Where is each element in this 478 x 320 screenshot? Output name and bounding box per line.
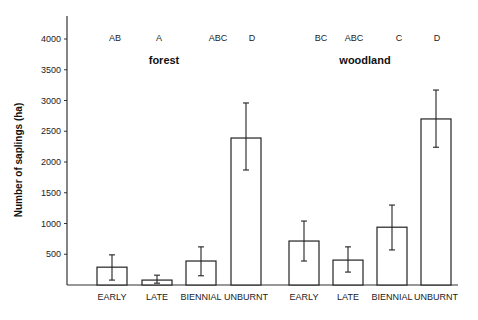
bar-forest-unburnt (231, 103, 261, 285)
x-category-label: EARLY (98, 292, 127, 302)
bar-woodland-unburnt (421, 90, 451, 285)
y-tick-label: 2000 (41, 157, 61, 167)
significance-letter: C (396, 33, 403, 43)
bars (97, 90, 451, 285)
y-tick-label: 500 (46, 249, 61, 259)
bar-forest-early (97, 255, 127, 285)
group-label-forest: forest (149, 54, 180, 66)
bar-woodland-biennial (377, 205, 407, 285)
y-tick-label: 4000 (41, 34, 61, 44)
y-tick-label: 1000 (41, 219, 61, 229)
x-category-label: BIENNIAL (371, 292, 412, 302)
significance-letter: D (434, 33, 441, 43)
bar-forest-late (142, 275, 172, 285)
y-axis-ticks: 5001000150020002500300035004000 (41, 34, 67, 259)
significance-letter: A (156, 33, 162, 43)
significance-letter: D (249, 33, 256, 43)
y-tick-label: 1500 (41, 188, 61, 198)
group-label-woodland: woodland (338, 54, 390, 66)
x-category-label: UNBURNT (224, 292, 269, 302)
y-tick-label: 3500 (41, 65, 61, 75)
x-category-label: EARLY (290, 292, 319, 302)
x-category-label: LATE (337, 292, 359, 302)
x-category-label: LATE (146, 292, 168, 302)
y-tick-label: 2500 (41, 126, 61, 136)
x-category-label: UNBURNT (414, 292, 459, 302)
x-category-label: BIENNIAL (180, 292, 221, 302)
significance-letter: ABC (209, 33, 228, 43)
significance-letter: AB (109, 33, 121, 43)
significance-letter: BC (315, 33, 328, 43)
bar-chart: 5001000150020002500300035004000 EARLYABL… (0, 0, 478, 320)
bar-forest-biennial (186, 247, 216, 285)
bar-woodland-late (333, 247, 363, 285)
bar-woodland-early (289, 221, 319, 285)
y-tick-label: 3000 (41, 96, 61, 106)
y-axis-label: Number of saplings (ha) (13, 103, 24, 217)
significance-letter: ABC (345, 33, 364, 43)
